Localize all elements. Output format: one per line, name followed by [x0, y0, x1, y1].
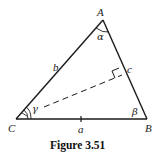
vertex-label-b: B [145, 122, 152, 134]
side-b [16, 20, 103, 119]
figure-caption: Figure 3.51 [50, 139, 106, 152]
altitude-dashed-line [44, 75, 122, 107]
side-c [103, 20, 147, 119]
angle-gamma-tick [22, 113, 27, 116]
vertex-label-c: C [8, 122, 16, 134]
side-label-c: c [127, 63, 132, 75]
side-label-b: b [53, 61, 59, 73]
triangle-diagram: A B C b c a α β γ Figure 3.51 [0, 0, 158, 154]
angle-label-gamma: γ [32, 103, 38, 114]
right-angle-marker [112, 68, 119, 78]
angle-label-alpha: α [97, 31, 104, 42]
angle-label-beta: β [131, 106, 138, 117]
vertex-label-a: A [96, 6, 104, 18]
side-label-a: a [78, 123, 84, 135]
